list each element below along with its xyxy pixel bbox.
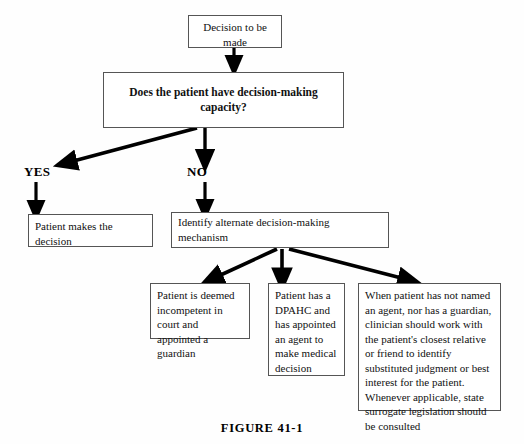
node-patient-makes-decision-label: Patient makes the decision xyxy=(35,220,113,247)
node-incompetent-guardian-label: Patient is deemed incompetent in court a… xyxy=(157,289,235,359)
arrow-identify-to-incompetent xyxy=(212,249,277,279)
figure-caption: FIGURE 41-1 xyxy=(0,421,524,436)
node-surrogate-decision[interactable]: When patient has not named an agent, nor… xyxy=(358,283,501,411)
figure-canvas: Decision to be made Does the patient hav… xyxy=(0,0,524,444)
edge-label-no: NO xyxy=(187,164,207,180)
node-decision-to-be-made-label: Decision to be made xyxy=(203,21,267,48)
node-patient-makes-decision[interactable]: Patient makes the decision xyxy=(28,214,153,247)
node-incompetent-guardian[interactable]: Patient is deemed incompetent in court a… xyxy=(150,283,250,339)
node-identify-alternate-label: Identify alternate decision-making mecha… xyxy=(178,215,382,244)
node-surrogate-decision-label: When patient has not named an agent, nor… xyxy=(365,289,491,432)
arrow-identify-to-surrogate xyxy=(289,249,409,280)
arrow-question-to-yes xyxy=(66,128,197,163)
node-dpahc-agent[interactable]: Patient has a DPAHC and has appointed an… xyxy=(268,283,345,376)
node-dpahc-agent-label: Patient has a DPAHC and has appointed an… xyxy=(275,289,336,374)
edge-label-yes: YES xyxy=(24,164,51,180)
node-identify-alternate[interactable]: Identify alternate decision-making mecha… xyxy=(171,212,389,248)
node-capacity-question-label: Does the patient have decision-making ca… xyxy=(110,85,337,115)
node-decision-to-be-made[interactable]: Decision to be made xyxy=(188,15,282,48)
node-capacity-question[interactable]: Does the patient have decision-making ca… xyxy=(103,72,344,128)
